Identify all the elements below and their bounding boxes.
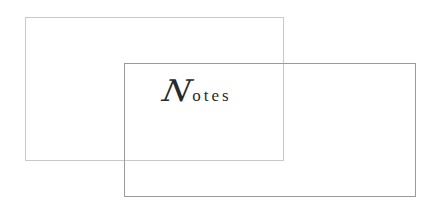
notes-title: Notes — [164, 76, 232, 106]
title-initial: N — [160, 76, 195, 106]
title-rest: otes — [192, 87, 231, 104]
